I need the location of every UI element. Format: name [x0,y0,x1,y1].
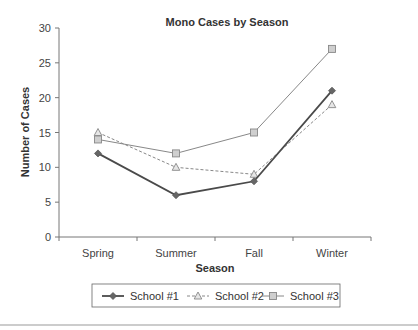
x-axis-title: Season [195,262,234,274]
square-marker [270,293,277,300]
y-tick-label: 5 [45,196,51,208]
series-group [94,45,336,198]
y-tick-label: 0 [45,231,51,243]
legend-label: School #3 [290,290,339,302]
x-tick-label: Spring [82,247,114,259]
x-tick-label: Summer [155,247,197,259]
chart-title: Mono Cases by Season [166,16,289,28]
y-tick-label: 20 [39,92,51,104]
y-tick-label: 10 [39,161,51,173]
series-school-2 [94,101,336,178]
diamond-marker [95,150,102,157]
triangle-marker [328,101,336,108]
line-chart: Mono Cases by Season Number of Cases Sea… [0,0,418,330]
square-marker [173,150,180,157]
square-marker [251,129,258,136]
square-marker [95,136,102,143]
tick-labels: 051015202530SpringSummerFallWinter [39,22,348,259]
legend-label: School #1 [130,290,179,302]
series-line [98,105,332,175]
x-tick-label: Fall [245,247,263,259]
triangle-marker [172,163,180,170]
diamond-marker [173,192,180,199]
axes [55,28,371,241]
x-tick-label: Winter [316,247,348,259]
legend: School #1School #2School #3 [92,284,340,307]
series-line [98,49,332,153]
series-school-3 [95,45,336,156]
square-marker [329,45,336,52]
y-axis-title: Number of Cases [19,87,31,177]
triangle-marker [94,129,102,136]
y-tick-label: 15 [39,127,51,139]
y-tick-label: 30 [39,22,51,34]
y-tick-label: 25 [39,57,51,69]
legend-label: School #2 [215,290,264,302]
